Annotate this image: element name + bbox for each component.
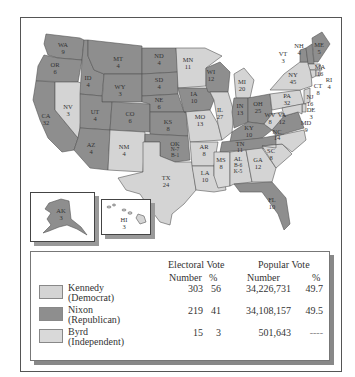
svg-text:VT: VT	[279, 50, 288, 57]
svg-text:OR: OR	[50, 61, 60, 68]
svg-text:10: 10	[191, 97, 198, 104]
svg-text:B-1: B-1	[171, 152, 180, 158]
svg-text:NH: NH	[294, 42, 304, 49]
svg-text:25: 25	[255, 107, 262, 114]
democrat-swatch	[39, 285, 63, 299]
svg-text:DE: DE	[307, 106, 316, 113]
svg-text:10: 10	[246, 131, 253, 138]
state-FL	[234, 182, 290, 230]
svg-text:MA: MA	[315, 63, 326, 70]
svg-text:5: 5	[317, 48, 320, 55]
svg-text:3: 3	[59, 214, 62, 221]
svg-text:16: 16	[317, 70, 324, 77]
svg-text:8: 8	[269, 154, 272, 161]
svg-text:WA: WA	[58, 41, 68, 48]
svg-text:3: 3	[281, 57, 284, 64]
svg-text:9: 9	[61, 48, 64, 55]
svg-text:11: 11	[237, 146, 243, 153]
ev-pct-header: %	[209, 272, 217, 283]
nixon-pv-pct: 49.5	[299, 305, 323, 316]
svg-text:10: 10	[202, 176, 209, 183]
svg-text:LA: LA	[201, 169, 210, 176]
pv-pct-header: %	[312, 272, 320, 283]
svg-text:MN: MN	[183, 56, 194, 63]
svg-text:12: 12	[208, 75, 215, 82]
state-DE	[302, 104, 306, 112]
svg-text:MD: MD	[301, 119, 312, 126]
svg-text:8: 8	[202, 150, 205, 157]
svg-text:IA: IA	[191, 90, 198, 97]
alaska-map: AK 3	[31, 193, 94, 241]
svg-text:MT: MT	[113, 55, 123, 62]
svg-text:IL: IL	[217, 106, 223, 113]
kennedy-pv: 34,226,731	[229, 283, 291, 294]
svg-text:UT: UT	[91, 108, 100, 115]
svg-text:NM: NM	[119, 143, 130, 150]
svg-text:45: 45	[290, 78, 297, 85]
svg-text:NJ: NJ	[306, 93, 314, 100]
svg-text:CA: CA	[41, 112, 50, 119]
byrd-ev: 15	[171, 327, 203, 338]
svg-text:13: 13	[197, 120, 204, 127]
svg-text:11: 11	[185, 63, 191, 70]
svg-text:ME: ME	[314, 41, 324, 48]
svg-text:9: 9	[304, 126, 307, 133]
svg-text:8: 8	[219, 163, 222, 170]
svg-text:OH: OH	[253, 100, 263, 107]
svg-text:4: 4	[327, 83, 331, 90]
svg-text:AR: AR	[199, 143, 209, 150]
svg-text:NV: NV	[63, 103, 73, 110]
svg-text:32: 32	[284, 99, 291, 106]
svg-text:32: 32	[43, 119, 50, 126]
nixon-ev: 219	[171, 305, 203, 316]
kennedy-pv-pct: 49.7	[299, 283, 323, 294]
svg-text:8: 8	[316, 89, 319, 96]
svg-text:14: 14	[274, 134, 281, 141]
popular-vote-header: Popular Vote	[258, 259, 310, 270]
svg-text:3: 3	[66, 110, 69, 117]
svg-text:3: 3	[122, 223, 125, 230]
results-table: Electoral Vote Popular Vote Number % Num…	[30, 251, 330, 361]
svg-text:MS: MS	[216, 156, 226, 163]
svg-text:WI: WI	[207, 68, 215, 75]
kennedy-ev: 303	[171, 283, 203, 294]
nixon-ev-pct: 41	[201, 305, 221, 316]
hawaii-inset: HI 3	[101, 199, 151, 235]
independent-swatch	[39, 329, 63, 343]
republican-swatch	[39, 307, 63, 321]
svg-text:8: 8	[268, 118, 271, 125]
svg-text:RI: RI	[326, 76, 333, 83]
byrd-pv: 501,643	[229, 327, 291, 338]
candidate-kennedy: Kennedy(Democrat)	[68, 283, 114, 303]
byrd-ev-pct: 3	[201, 327, 221, 338]
svg-text:KY: KY	[244, 124, 254, 131]
svg-text:13: 13	[237, 109, 244, 116]
svg-text:MO: MO	[195, 113, 206, 120]
svg-text:FL: FL	[268, 196, 276, 203]
svg-text:12: 12	[255, 163, 262, 170]
svg-text:NE: NE	[155, 96, 164, 103]
svg-text:IN: IN	[237, 102, 244, 109]
svg-text:CT: CT	[314, 82, 322, 89]
ev-number-header: Number	[169, 272, 202, 283]
svg-text:WY: WY	[115, 83, 126, 90]
electoral-vote-header: Electoral Vote	[168, 259, 225, 270]
svg-text:24: 24	[163, 181, 170, 188]
svg-text:VA: VA	[278, 111, 287, 118]
svg-text:10: 10	[269, 203, 276, 210]
svg-text:K-5: K-5	[234, 168, 243, 174]
svg-text:TX: TX	[162, 174, 171, 181]
svg-text:12: 12	[279, 118, 286, 125]
nixon-pv: 34,108,157	[229, 305, 291, 316]
candidate-byrd: Byrd(Independent)	[68, 327, 124, 347]
svg-text:HI: HI	[121, 216, 128, 223]
svg-text:20: 20	[239, 85, 246, 92]
svg-text:ND: ND	[154, 52, 164, 59]
svg-text:PA: PA	[283, 92, 291, 99]
byrd-pv-pct: ----	[299, 327, 323, 338]
svg-text:AK: AK	[56, 207, 66, 214]
svg-text:3: 3	[118, 90, 121, 97]
svg-text:WV: WV	[265, 111, 276, 118]
svg-text:MI: MI	[238, 78, 246, 85]
svg-text:27: 27	[217, 113, 224, 120]
